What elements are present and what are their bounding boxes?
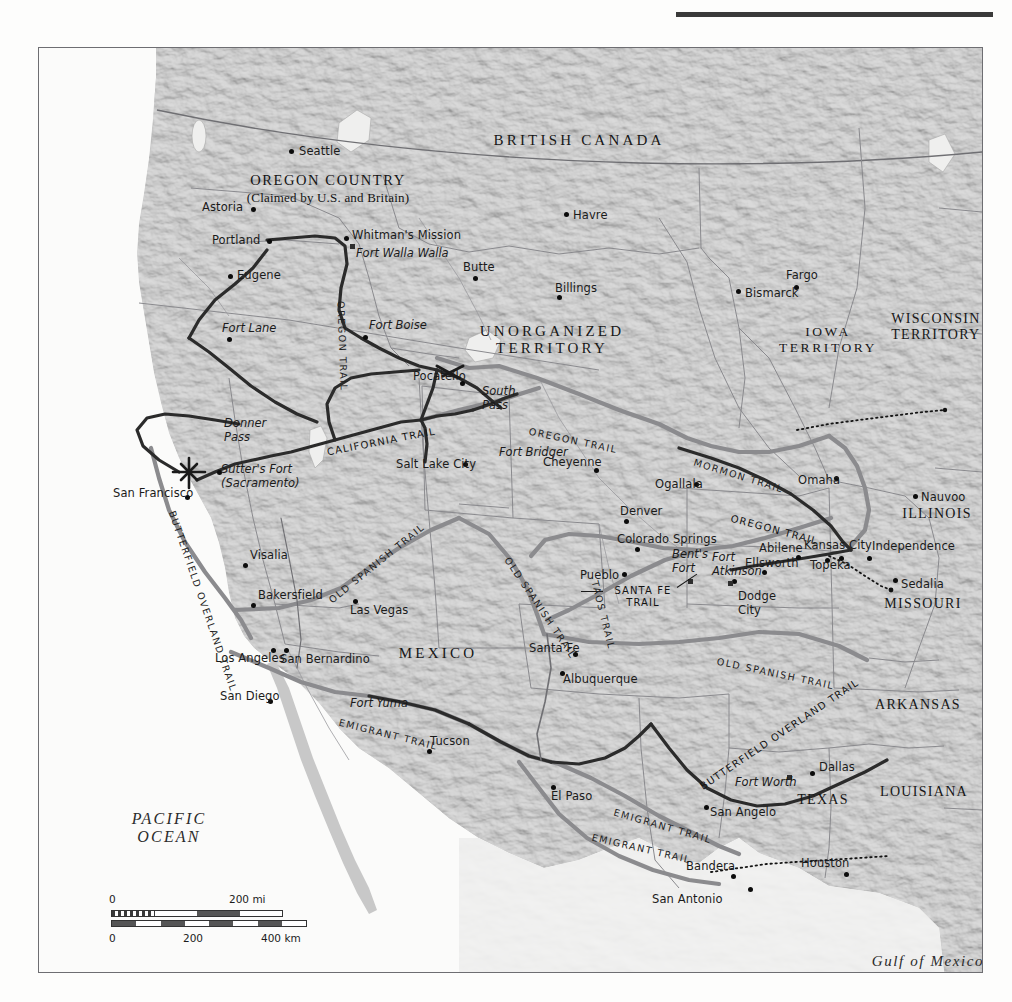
map-point-eugene bbox=[228, 274, 233, 279]
map-point-el-paso bbox=[551, 785, 556, 790]
map-point-san-francisco bbox=[185, 495, 190, 500]
scale-mi-start: 0 bbox=[109, 893, 116, 905]
map-point-ellsworth bbox=[762, 570, 767, 575]
map-point-dallas bbox=[810, 771, 815, 776]
map-point-fort-lane bbox=[227, 337, 232, 342]
map-point-dodge-city bbox=[732, 579, 737, 584]
map-point-san-bernardino bbox=[284, 648, 289, 653]
scale-km-end: 400 km bbox=[261, 932, 301, 944]
map-point-houston bbox=[844, 872, 849, 877]
map-point-san-antonio bbox=[748, 887, 753, 892]
map-point-whitman-s-mission bbox=[344, 236, 349, 241]
scale-km-mid: 200 bbox=[183, 932, 203, 944]
map-point-havre bbox=[564, 212, 569, 217]
map-point-sedalia bbox=[893, 578, 898, 583]
scale-mi-end: 200 mi bbox=[229, 893, 266, 905]
map-point-fort-walla-walla bbox=[350, 244, 355, 249]
map-point-fort-worth bbox=[787, 775, 792, 780]
map-point-kansas-city bbox=[839, 556, 844, 561]
map-point-ogallala bbox=[694, 482, 699, 487]
map-point-denver bbox=[624, 519, 629, 524]
map-point-bismarck bbox=[736, 289, 741, 294]
map-point-pueblo bbox=[622, 572, 627, 577]
scale-bar: 0 200 mi 0 200 400 km bbox=[109, 893, 339, 963]
map-point-las-vegas bbox=[353, 599, 358, 604]
map-point-cheyenne bbox=[594, 468, 599, 473]
scale-bar-miles bbox=[111, 910, 283, 917]
scale-bar-km bbox=[111, 920, 307, 927]
map-point-butte bbox=[473, 276, 478, 281]
map-point-independence bbox=[867, 556, 872, 561]
map-point-omaha bbox=[834, 476, 839, 481]
map-point-pocatello bbox=[460, 381, 465, 386]
map-point-santa-fe bbox=[573, 652, 578, 657]
map-point-fort-atkinson bbox=[728, 581, 733, 586]
map-point-billings bbox=[557, 295, 562, 300]
map-point-bakersfield bbox=[251, 603, 256, 608]
map-point-san-angelo bbox=[704, 805, 709, 810]
page-rule bbox=[676, 12, 993, 17]
map-point-topeka bbox=[825, 558, 830, 563]
map-point-astoria bbox=[251, 207, 256, 212]
map-point-sutter-s-fort-sacramento bbox=[217, 470, 222, 475]
map-point-salt-lake-city bbox=[463, 462, 468, 467]
map-point-los-angeles bbox=[271, 648, 276, 653]
map-point-seattle bbox=[289, 149, 294, 154]
map-graphics bbox=[39, 48, 982, 972]
scale-km-start: 0 bbox=[109, 932, 116, 944]
map-point-bandera bbox=[731, 874, 736, 879]
map-point-san-diego bbox=[268, 699, 273, 704]
map-point-visalia bbox=[243, 563, 248, 568]
map-point-nauvoo bbox=[913, 494, 918, 499]
map-point-abilene bbox=[796, 555, 801, 560]
map-point-albuquerque bbox=[560, 671, 565, 676]
map-point-tucson bbox=[427, 749, 432, 754]
map-point-portland bbox=[267, 239, 272, 244]
map-point-fort-boise bbox=[363, 335, 368, 340]
map-point-fargo bbox=[794, 285, 799, 290]
map-frame: BRITISH CANADAUNORGANIZEDTERRITORYIOWATE… bbox=[38, 47, 983, 973]
trail-callout-leader-left bbox=[581, 591, 603, 592]
map-point-colorado-springs bbox=[635, 547, 640, 552]
